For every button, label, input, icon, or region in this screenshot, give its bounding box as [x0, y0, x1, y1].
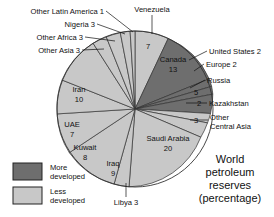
callout-nigeria: Nigeria 3 [65, 20, 95, 29]
title-line-1: World [216, 153, 245, 165]
callout-other-latin-america: Other Latin America 1 [31, 7, 104, 16]
label-kuwait: Kuwait [74, 143, 98, 152]
label-iran: Iran [72, 85, 85, 94]
legend-label-less-developed-line2: developed [50, 196, 85, 205]
value-iran: 10 [75, 95, 83, 104]
legend-swatch-more-developed[interactable] [13, 163, 42, 180]
value-venezuela: 7 [146, 42, 150, 51]
callout-venezuela: Venezuela [134, 5, 170, 14]
pie-chart-figure: Other Latin America 1 Nigeria 3 Other Af… [0, 0, 274, 217]
title-line-3: reserves [209, 179, 252, 191]
value-russia: 5 [194, 88, 198, 97]
value-saudi-arabia: 20 [164, 144, 172, 153]
callout-united-states: United States 2 [209, 47, 261, 56]
label-saudi-arabia: Saudi Arabia [146, 134, 190, 143]
callout-other-africa: Other Africa 3 [37, 33, 83, 42]
value-other-central-asia: 3 [194, 116, 198, 125]
label-uae: UAE [64, 120, 80, 129]
legend-swatch-less-developed[interactable] [13, 187, 42, 204]
callout-europe: Europe 2 [206, 60, 237, 69]
callout-other-asia: Other Asia 3 [38, 46, 80, 55]
title-line-2: petroleum [206, 166, 255, 178]
value-iraq: 9 [111, 169, 115, 178]
callout-libya: Libya 3 [114, 198, 139, 207]
callout-other-central-asia-line1: Other [210, 113, 229, 122]
callout-kazakhstan: Kazakhstan [209, 99, 249, 108]
legend-label-more-developed-line2: developed [50, 172, 85, 181]
label-canada: Canada [160, 55, 187, 64]
legend-label-less-developed-line1: Less [50, 187, 66, 196]
label-iraq: Iraq [106, 159, 119, 168]
legend-label-more-developed-line1: More [50, 163, 67, 172]
value-uae: 7 [70, 130, 74, 139]
value-kazakhstan: 2 [197, 99, 201, 108]
callout-other-central-asia-line2: Central Asia [210, 122, 252, 131]
value-canada: 13 [169, 65, 177, 74]
title-line-4: (percentage) [199, 192, 261, 204]
callout-russia: Russia [207, 76, 231, 85]
value-kuwait: 8 [83, 153, 87, 162]
